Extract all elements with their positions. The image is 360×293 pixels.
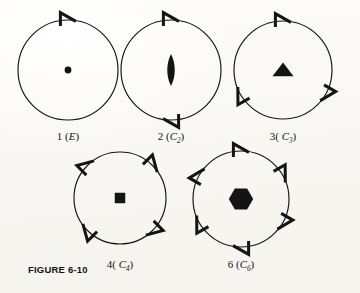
label-c3-number: 3(	[270, 130, 282, 142]
label-c3-close: )	[293, 130, 297, 142]
hook-marker	[189, 213, 208, 233]
label-c4: 4( C4)	[90, 258, 150, 273]
label-c1: 1 (E)	[38, 130, 98, 145]
label-c2: 2 (C2)	[141, 130, 201, 145]
label-c6-number: 6 (	[228, 258, 240, 270]
hook-marker	[273, 213, 292, 233]
symmetry-diagram-c2	[121, 13, 221, 128]
label-c3-symbol: C	[282, 130, 289, 142]
label-c1-number: 1 (	[57, 130, 69, 142]
hook-marker	[60, 13, 76, 26]
hook-marker	[275, 14, 291, 27]
hook-marker	[233, 241, 249, 254]
label-c2-close: )	[181, 130, 185, 142]
symmetry-diagram-c6	[189, 144, 293, 255]
hook-marker	[143, 155, 163, 175]
symmetry-diagram-c1	[18, 13, 118, 120]
label-c6: 6 (C6)	[211, 258, 271, 273]
label-c3: 3( C3)	[253, 130, 313, 145]
hook-marker	[163, 13, 179, 26]
center-symbol-pointed-oval	[167, 54, 175, 86]
label-c4-symbol: C	[119, 258, 126, 270]
symmetry-diagram-c3	[230, 14, 335, 119]
label-c6-symbol: C	[240, 258, 247, 270]
center-symbol-filled-triangle	[272, 62, 293, 76]
hook-marker	[274, 165, 293, 185]
hook-marker	[189, 164, 208, 184]
hook-marker	[143, 221, 163, 241]
label-c6-close: )	[251, 258, 255, 270]
center-symbol-filled-square	[115, 193, 126, 204]
hook-marker	[230, 85, 249, 105]
label-c4-close: )	[130, 258, 134, 270]
hook-marker	[163, 114, 179, 127]
label-c4-number: 4(	[107, 258, 119, 270]
symmetry-diagrams-svg	[0, 0, 360, 293]
center-symbol-filled-hexagon	[229, 188, 253, 209]
center-symbol-filled-circle	[65, 67, 72, 74]
figure-canvas	[0, 0, 360, 293]
label-c2-symbol: C	[170, 130, 177, 142]
label-c1-close: )	[75, 130, 79, 142]
symmetry-diagram-c4	[74, 152, 166, 244]
hook-marker	[233, 144, 249, 157]
figure-caption: FIGURE 6-10	[28, 264, 88, 275]
hook-marker	[316, 85, 335, 105]
label-c2-number: 2 (	[158, 130, 170, 142]
hook-marker	[77, 221, 97, 241]
hook-marker	[77, 155, 97, 175]
